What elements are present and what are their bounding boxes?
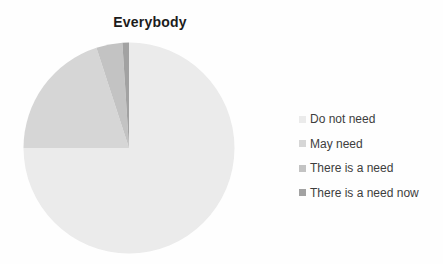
legend-key-swatch	[299, 165, 306, 172]
legend-item: May need	[299, 138, 419, 150]
legend-item: There is a need	[299, 162, 419, 174]
legend-item: Do not need	[299, 113, 419, 125]
pie-chart	[0, 0, 300, 264]
chart-container: Everybody Do not needMay needThere is a …	[0, 0, 443, 264]
legend-key-swatch	[299, 189, 306, 196]
legend-key-swatch	[299, 140, 306, 147]
legend-label: May need	[310, 138, 363, 150]
legend-key-swatch	[299, 116, 306, 123]
legend-label: Do not need	[310, 113, 375, 125]
legend: Do not needMay needThere is a needThere …	[299, 113, 419, 211]
legend-label: There is a need now	[310, 187, 419, 199]
legend-label: There is a need	[310, 162, 393, 174]
legend-item: There is a need now	[299, 187, 419, 199]
